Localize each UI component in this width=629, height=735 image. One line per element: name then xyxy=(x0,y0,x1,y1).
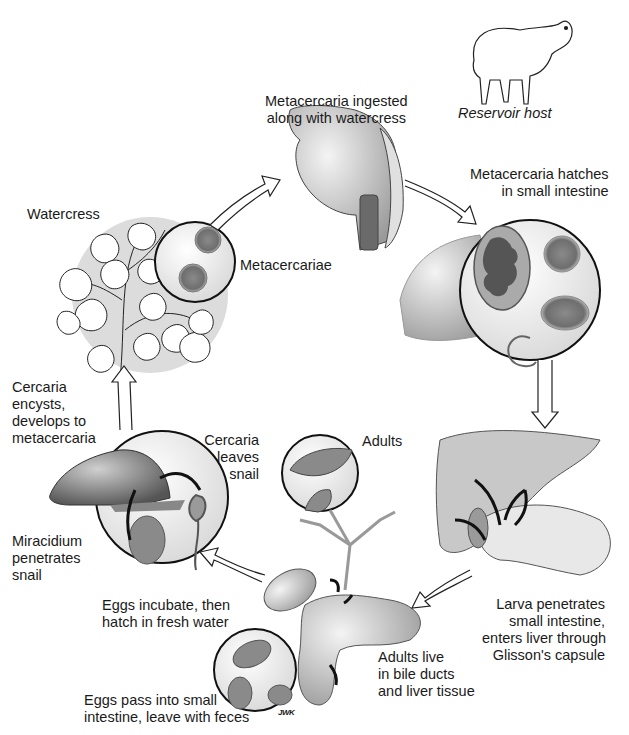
label-cercaria-leaves-snail: Cercaria leaves snail xyxy=(202,432,259,483)
arrow-ingested-to-intestine xyxy=(405,180,476,224)
adults-lens xyxy=(282,435,358,512)
label-reservoir-host: Reservoir host xyxy=(458,105,551,122)
label-adults-live: Adults live in bile ducts and liver tiss… xyxy=(378,649,475,700)
arrow-liver-to-biliary xyxy=(412,570,472,608)
label-larva-penetrates: Larva penetrates small intestine, enters… xyxy=(482,596,605,664)
small-intestine-lens xyxy=(400,220,600,366)
label-adults: Adults xyxy=(362,433,402,450)
sheep-illustration xyxy=(473,21,572,104)
head-cross-section-illustration xyxy=(289,106,404,251)
arrow-biliary-to-snail xyxy=(200,548,265,582)
arrow-watercress-to-ingested xyxy=(210,176,280,230)
arrow-intestine-to-liver xyxy=(532,360,558,428)
liver-illustration xyxy=(436,431,610,575)
arrow-snail-to-watercress xyxy=(112,366,136,430)
label-metacercaria-hatches: Metacercaria hatches in small intestine xyxy=(470,166,609,200)
label-miracidium: Miracidium penetrates snail xyxy=(12,533,82,584)
label-eggs-pass: Eggs pass into small intestine, leave wi… xyxy=(84,692,249,726)
label-watercress: Watercress xyxy=(27,206,100,223)
artist-signature: JWK xyxy=(278,708,294,717)
metacercariae-lens xyxy=(155,222,235,302)
label-eggs-incubate: Eggs incubate, then hatch in fresh water xyxy=(102,597,230,631)
label-metacercaria-ingested: Metacercaria ingested along with watercr… xyxy=(265,93,408,127)
label-cercaria-encysts: Cercaria encysts, develops to metacercar… xyxy=(12,379,96,447)
label-metacercariae: Metacercariae xyxy=(240,257,332,274)
